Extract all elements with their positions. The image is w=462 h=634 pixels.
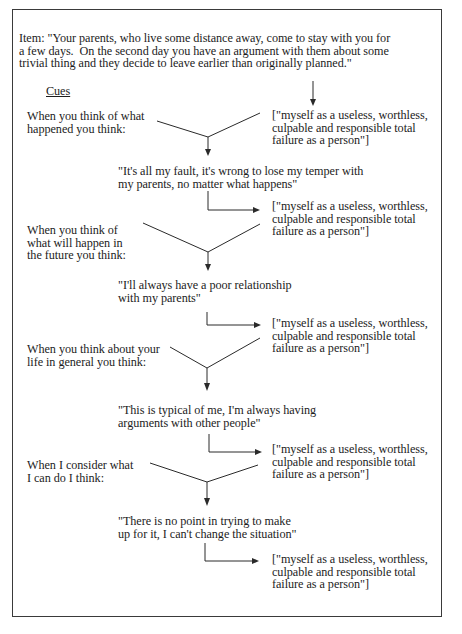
elbow-arrow-right-icon-2 [207, 312, 261, 328]
arrow-down-icon [310, 81, 316, 106]
merge-v-connector-2 [143, 223, 260, 271]
diagram-connectors [0, 0, 462, 634]
elbow-arrow-right-icon-4 [205, 543, 259, 564]
merge-v-connector-3 [170, 338, 260, 391]
merge-v-connector-1 [157, 113, 260, 156]
merge-v-connector-4 [150, 463, 258, 506]
elbow-arrow-right-icon-3 [209, 434, 262, 455]
elbow-arrow-right-icon-1 [208, 191, 260, 213]
